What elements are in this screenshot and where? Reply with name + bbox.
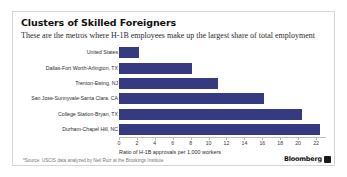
x-axis-tick-label: 18	[277, 140, 283, 146]
bar-category-label: Durham-Chapel Hill, NC	[62, 123, 118, 136]
bar-track	[119, 124, 325, 135]
bar	[119, 63, 192, 74]
bar-row: San Jose-Sunnyvale-Santa Clara, CA	[13, 92, 334, 105]
x-axis-tick-label: 0	[118, 140, 121, 146]
bar	[119, 78, 218, 89]
bar-row: Dallas-Fort Worth-Arlington, TX	[13, 62, 334, 75]
x-axis-tick-label: 10	[206, 140, 212, 146]
bar	[119, 93, 264, 104]
bar-category-label: San Jose-Sunnyvale-Santa Clara, CA	[31, 92, 118, 105]
bar-category-label: College Station-Bryan, TX	[58, 108, 118, 121]
bar-row: Durham-Chapel Hill, NC	[13, 123, 334, 136]
x-axis-tick-label: 14	[242, 140, 248, 146]
x-axis-tick-label: 6	[171, 140, 174, 146]
bloomberg-square-icon	[324, 156, 331, 163]
x-axis-tick-label: 2	[135, 140, 138, 146]
x-axis-tick-label: 16	[259, 140, 265, 146]
bar-category-label: United States	[87, 46, 118, 59]
x-axis-tick-label: 22	[313, 140, 319, 146]
page-title: Clusters of Skilled Foreigners	[21, 17, 176, 28]
x-axis-tick-label: 20	[295, 140, 301, 146]
bar-track	[119, 93, 325, 104]
x-axis-tick-label: 4	[153, 140, 156, 146]
bar-chart-plot-area: United StatesDallas-Fort Worth-Arlington…	[13, 45, 334, 137]
bar-row: United States	[13, 46, 334, 59]
chart-subtitle: These are the metros where H-1B employee…	[21, 31, 315, 40]
bar-row: Trenton-Ewing, NJ	[13, 77, 334, 90]
bloomberg-logo: Bloomberg	[284, 155, 331, 163]
bar-track	[119, 63, 325, 74]
bar-track	[119, 47, 325, 58]
bloomberg-wordmark: Bloomberg	[284, 155, 322, 163]
bar-row: College Station-Bryan, TX	[13, 108, 334, 121]
x-axis-tick-label: 12	[224, 140, 230, 146]
bar-track	[119, 78, 325, 89]
source-note: *Source: USCIS data analyzed by Neil Rui…	[23, 158, 163, 163]
x-axis-tick-label: 8	[189, 140, 192, 146]
chart-card: Clusters of Skilled Foreigners These are…	[12, 11, 335, 166]
bar	[119, 124, 320, 135]
bar-category-label: Dallas-Fort Worth-Arlington, TX	[46, 62, 118, 75]
x-axis-line	[119, 137, 326, 138]
bar-category-label: Trenton-Ewing, NJ	[75, 77, 118, 90]
x-axis-title: Ratio of H-1B approvals per 1,000 worker…	[119, 149, 221, 155]
bar	[119, 47, 139, 58]
bar	[119, 109, 302, 120]
bar-track	[119, 109, 325, 120]
